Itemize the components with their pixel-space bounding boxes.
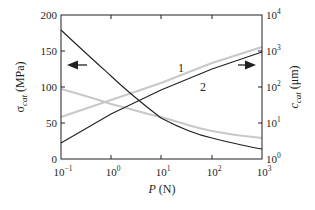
y-left-ticks [61, 51, 65, 123]
plot-frame [61, 15, 262, 159]
svg-text:102: 102 [266, 79, 281, 93]
y-right-axis-title: ccat (μm) [287, 65, 303, 108]
svg-text:102: 102 [207, 164, 222, 178]
curve-label-2: 2 [200, 80, 206, 94]
svg-text:100: 100 [41, 81, 58, 93]
svg-text:101: 101 [266, 115, 281, 129]
y-right-tick-labels: 100 101 102 103 104 [266, 7, 281, 165]
curve-1-sigma [61, 89, 262, 138]
y-left-axis-title: σcat (MPa) [13, 61, 29, 112]
svg-text:200: 200 [41, 9, 58, 21]
y-right-ticks [258, 51, 262, 123]
curves [61, 30, 262, 149]
x-ticks [111, 15, 212, 159]
svg-text:104: 104 [266, 7, 281, 21]
svg-text:103: 103 [257, 164, 272, 178]
right-axis-arrow-icon [238, 61, 256, 70]
curve-label-1: 1 [178, 61, 184, 75]
chart: 0 50 100 150 200 100 101 102 103 104 10−… [0, 0, 315, 210]
svg-text:100: 100 [106, 164, 121, 178]
svg-text:103: 103 [266, 43, 281, 57]
svg-text:101: 101 [156, 164, 171, 178]
x-axis-title: P (N) [147, 182, 175, 196]
x-tick-labels: 10−1 100 101 102 103 [54, 164, 272, 178]
svg-text:50: 50 [46, 117, 58, 129]
svg-text:150: 150 [41, 45, 58, 57]
y-left-tick-labels: 0 50 100 150 200 [41, 9, 58, 165]
left-axis-arrow-icon [67, 61, 87, 70]
svg-text:10−1: 10−1 [54, 164, 73, 178]
svg-text:100: 100 [266, 151, 281, 165]
svg-text:0: 0 [52, 153, 58, 165]
